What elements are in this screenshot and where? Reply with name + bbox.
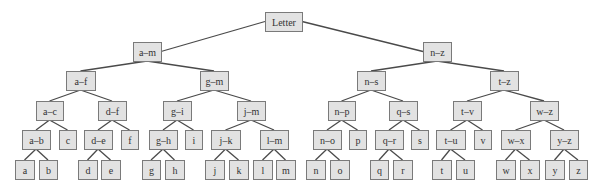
node-g-i: g–i: [164, 102, 192, 121]
edge-letter-to-a-m: [161, 22, 265, 52]
node-label: j–m: [243, 106, 260, 117]
node-label: x: [528, 165, 533, 176]
edge-j-k-to-k: [226, 149, 239, 160]
edge-d-e-to-d: [88, 149, 99, 160]
node-label: g–i: [171, 106, 184, 117]
edge-d-f-to-f: [112, 120, 130, 130]
edge-g-m-to-g-i: [177, 90, 214, 101]
node-label: Letter: [272, 17, 297, 28]
node-label: l–m: [267, 135, 283, 146]
node-d-f: d–f: [99, 102, 127, 121]
edge-t-z-to-t-v: [467, 90, 504, 101]
node-label: n–z: [430, 47, 445, 58]
node-a: a: [16, 161, 35, 180]
edge-g-h-to-h: [163, 149, 175, 160]
edge-n-z-to-t-z: [437, 61, 504, 71]
edge-q-r-to-r: [389, 149, 403, 160]
edge-w-x-to-x: [516, 149, 530, 160]
node-d: d: [79, 161, 98, 180]
edge-w-z-to-y-z: [544, 120, 564, 130]
node-g-h: g–h: [150, 131, 178, 150]
node-label: d–e: [91, 135, 106, 146]
node-label: y–z: [557, 135, 572, 146]
edge-j-m-to-j-k: [226, 120, 252, 130]
node-label: o: [338, 165, 343, 176]
node-v: v: [475, 131, 492, 150]
node-label: t–u: [445, 135, 458, 146]
edge-a-m-to-g-m: [147, 61, 214, 71]
node-z: z: [570, 161, 588, 180]
edge-q-r-to-q: [379, 149, 389, 160]
node-label: w: [502, 165, 510, 176]
node-label: t–z: [498, 76, 511, 87]
edge-a-c-to-a-b: [36, 120, 50, 130]
node-i: i: [186, 131, 203, 150]
node-g-m: g–m: [201, 72, 229, 91]
node-m: m: [277, 161, 296, 180]
edge-n-z-to-n-s: [371, 61, 437, 71]
node-n: n: [307, 161, 326, 180]
letter-range-tree: Lettera–mn–za–fg–mn–st–za–cd–fg–ij–mn–pq…: [0, 0, 606, 190]
node-e: e: [102, 161, 121, 180]
edge-g-h-to-g: [151, 149, 163, 160]
node-label: j: [213, 165, 217, 176]
node-w-x: w–x: [502, 131, 531, 150]
node-n-z: n–z: [424, 43, 452, 62]
node-label: t: [441, 165, 444, 176]
edge-w-x-to-w: [506, 149, 516, 160]
node-label: a–f: [75, 76, 88, 87]
edge-t-u-to-t: [442, 149, 451, 160]
node-f: f: [122, 131, 139, 150]
edge-g-m-to-j-m: [214, 90, 251, 101]
node-q-s: q–s: [390, 102, 418, 121]
edge-n-s-to-q-s: [371, 90, 403, 101]
node-d-e: d–e: [85, 131, 113, 150]
node-s: s: [412, 131, 429, 150]
node-p: p: [350, 131, 367, 150]
node-c: c: [60, 131, 77, 150]
node-w-z: w–z: [531, 102, 559, 121]
node-label: t–v: [461, 106, 474, 117]
node-j: j: [206, 161, 225, 180]
node-t-z: t–z: [491, 72, 519, 91]
edge-a-b-to-a: [25, 149, 37, 160]
node-k: k: [230, 161, 249, 180]
node-q-r: q–r: [376, 131, 404, 150]
node-n-p: n–p: [329, 102, 356, 121]
edge-a-m-to-a-f: [81, 61, 148, 71]
node-h: h: [166, 161, 185, 180]
node-n-o: n–o: [314, 131, 342, 150]
node-letter: Letter: [266, 13, 303, 32]
node-label: m: [282, 165, 290, 176]
node-label: l: [262, 165, 265, 176]
node-y-z: y–z: [551, 131, 579, 150]
node-label: n–s: [365, 76, 379, 87]
edge-g-i-to-g-h: [163, 120, 177, 130]
edge-j-k-to-j: [215, 149, 226, 160]
node-label: y: [553, 165, 558, 176]
node-label: g: [149, 165, 154, 176]
edge-g-i-to-i: [177, 120, 194, 130]
node-n-s: n–s: [358, 72, 386, 91]
edge-q-s-to-s: [403, 120, 420, 130]
node-label: p: [356, 135, 361, 146]
node-o: o: [331, 161, 350, 180]
node-a-m: a–m: [134, 43, 162, 62]
node-g: g: [143, 161, 161, 180]
node-label: d–f: [106, 106, 120, 117]
node-label: n–o: [320, 135, 335, 146]
edge-n-o-to-o: [327, 149, 340, 160]
edge-a-f-to-a-c: [50, 90, 81, 101]
edge-j-m-to-l-m: [251, 120, 274, 130]
node-b: b: [40, 161, 58, 180]
edge-l-m-to-l: [263, 149, 275, 160]
edge-n-p-to-n-o: [327, 120, 342, 130]
edge-n-s-to-n-p: [342, 90, 372, 101]
edge-w-z-to-w-x: [516, 120, 545, 130]
node-l: l: [254, 161, 273, 180]
node-label: i: [193, 135, 196, 146]
node-label: q: [377, 165, 382, 176]
node-x: x: [521, 161, 540, 180]
node-label: q–r: [383, 135, 397, 146]
tree-nodes: Lettera–mn–za–fg–mn–st–za–cd–fg–ij–mn–pq…: [16, 13, 588, 180]
